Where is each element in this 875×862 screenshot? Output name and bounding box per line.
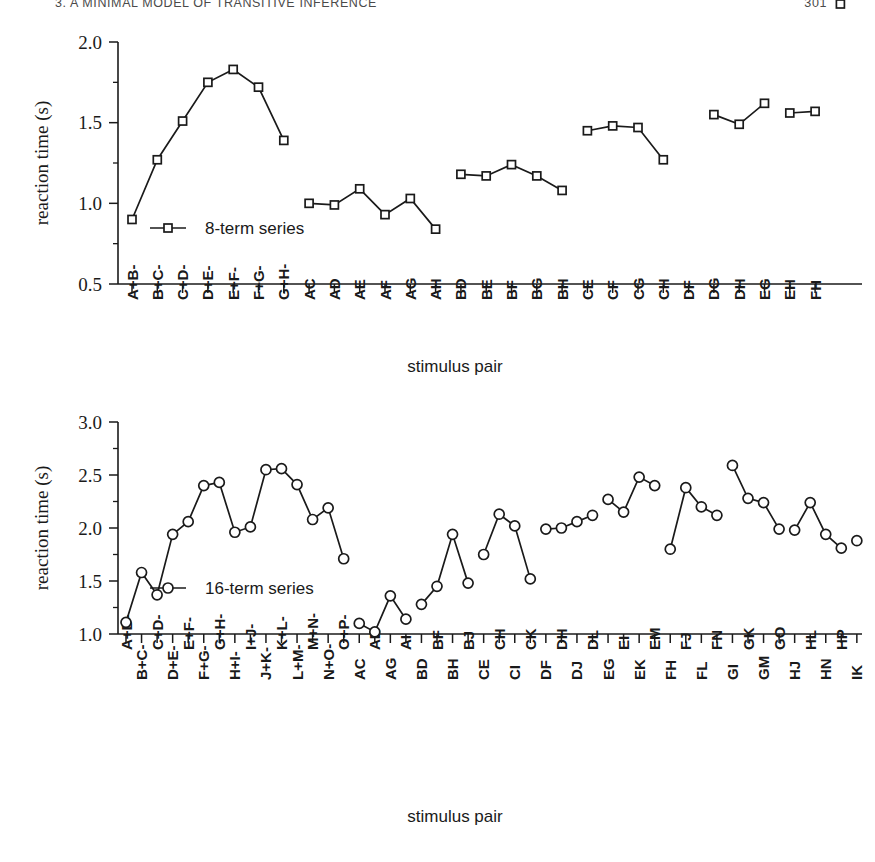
- data-point-marker: [727, 460, 737, 470]
- x-tick-label: DG: [705, 278, 722, 301]
- data-point-marker: [339, 554, 349, 564]
- data-point-marker: [179, 117, 187, 125]
- x-tick-label: HN: [817, 658, 834, 680]
- data-point-marker: [448, 529, 458, 539]
- data-point-marker: [199, 481, 209, 491]
- data-point-marker: [696, 502, 706, 512]
- series-segment-A-pairs: [359, 596, 406, 632]
- x-tick-label: E+F-: [225, 267, 242, 300]
- data-point-marker: [432, 225, 440, 233]
- x-tick-label: IK: [848, 665, 865, 680]
- x-tick-label: BF: [503, 280, 520, 300]
- data-point-marker: [761, 99, 769, 107]
- data-point-marker: [759, 498, 769, 508]
- data-point-marker: [137, 568, 147, 578]
- x-tick-label: HL: [802, 630, 819, 650]
- data-point-marker: [712, 510, 722, 520]
- y-tick-label: 0.5: [78, 274, 102, 295]
- series-segment-F-pairs: [670, 488, 717, 549]
- x-tick-label: GK: [740, 627, 757, 650]
- data-point-marker: [261, 465, 271, 475]
- x-tick-label: K+L-: [273, 616, 290, 650]
- x-tick-label: AI: [397, 635, 414, 650]
- data-point-marker: [821, 529, 831, 539]
- data-point-marker: [305, 199, 313, 207]
- data-point-marker: [558, 186, 566, 194]
- data-point-marker: [583, 127, 591, 135]
- x-tick-label: BE: [478, 279, 495, 300]
- data-point-marker: [556, 523, 566, 533]
- x-tick-label: D+E-: [199, 265, 216, 300]
- y-tick-label: 3.0: [78, 412, 102, 433]
- data-point-marker: [457, 170, 465, 178]
- x-tick-label: BF: [429, 630, 446, 650]
- x-axis: A+B-B+C-C+D-D+E-E+F-F+G-G+H-H+I-I+J-J+K-…: [118, 613, 866, 826]
- data-point-marker: [619, 507, 629, 517]
- chart-panel-top: 0.51.01.52.0reaction time (s)A+B-B+C-C+D…: [31, 0, 862, 376]
- x-tick-label: CG: [630, 278, 647, 301]
- x-tick-label: AE: [351, 279, 368, 300]
- data-point-marker: [255, 83, 263, 91]
- data-point-marker: [128, 215, 136, 223]
- x-tick-label: AD: [326, 278, 343, 300]
- data-point-marker: [811, 107, 819, 115]
- x-tick-label: AC: [301, 278, 318, 300]
- data-point-marker: [416, 599, 426, 609]
- data-point-marker: [432, 581, 442, 591]
- x-tick-label: DF: [680, 280, 697, 300]
- x-axis: A+B-B+C-C+D-D+E-E+F-F+G-G+H-ACADAEAFAGAH…: [118, 264, 862, 376]
- data-point-marker: [280, 136, 288, 144]
- x-tick-label: L+M-: [289, 645, 306, 680]
- data-point-marker: [214, 477, 224, 487]
- x-tick-label: FL: [693, 662, 710, 680]
- series-segment-C-pairs: [587, 126, 663, 160]
- y-tick-label: 1.5: [78, 112, 102, 133]
- data-point-marker: [609, 122, 617, 130]
- data-point-marker: [634, 472, 644, 482]
- x-tick-label: CE: [579, 279, 596, 300]
- data-point-marker: [710, 111, 718, 119]
- data-point-marker: [786, 109, 794, 117]
- x-tick-label: E+F-: [180, 617, 197, 650]
- data-point-marker: [406, 194, 414, 202]
- x-tick-label: GM: [755, 656, 772, 680]
- data-point-marker: [836, 0, 844, 8]
- x-tick-label: I+J-: [242, 624, 259, 650]
- data-point-marker: [330, 201, 338, 209]
- data-point-marker: [774, 524, 784, 534]
- x-tick-label: G+H-: [211, 614, 228, 650]
- x-tick-label: BJ: [460, 631, 477, 650]
- x-tick-label: C+D-: [149, 615, 166, 650]
- x-tick-label: BD: [452, 278, 469, 300]
- data-point-marker: [152, 590, 162, 600]
- data-point-marker: [508, 161, 516, 169]
- data-point-marker: [603, 494, 613, 504]
- y-tick-label: 1.0: [78, 624, 102, 645]
- data-point-marker: [245, 522, 255, 532]
- y-axis-label: reaction time (s): [31, 466, 53, 591]
- data-point-marker: [463, 578, 473, 588]
- series-segment-C-pairs: [484, 514, 531, 579]
- data-point-marker: [370, 627, 380, 637]
- x-tick-label: AF: [377, 280, 394, 300]
- x-tick-label: H+I-: [226, 651, 243, 680]
- data-point-marker: [168, 529, 178, 539]
- data-point-marker: [381, 211, 389, 219]
- x-tick-label: A+B-: [124, 265, 141, 300]
- data-point-marker: [153, 156, 161, 164]
- legend-label: 8-term series: [205, 219, 304, 238]
- x-tick-label: CE: [475, 659, 492, 680]
- y-axis-label: reaction time (s): [31, 101, 53, 226]
- series-segment-H-pairs: [795, 503, 842, 549]
- x-tick-label: HJ: [786, 661, 803, 680]
- data-point-marker: [292, 480, 302, 490]
- data-point-marker: [482, 172, 490, 180]
- data-point-marker: [401, 614, 411, 624]
- x-tick-label: AC: [351, 658, 368, 680]
- x-tick-label: G+H-: [275, 264, 292, 300]
- data-point-marker: [494, 509, 504, 519]
- series-segment-A-pairs: [309, 189, 436, 229]
- x-tick-label: B+C-: [149, 265, 166, 300]
- y-tick-label: 2.0: [78, 32, 102, 53]
- x-tick-label: AG: [382, 658, 399, 681]
